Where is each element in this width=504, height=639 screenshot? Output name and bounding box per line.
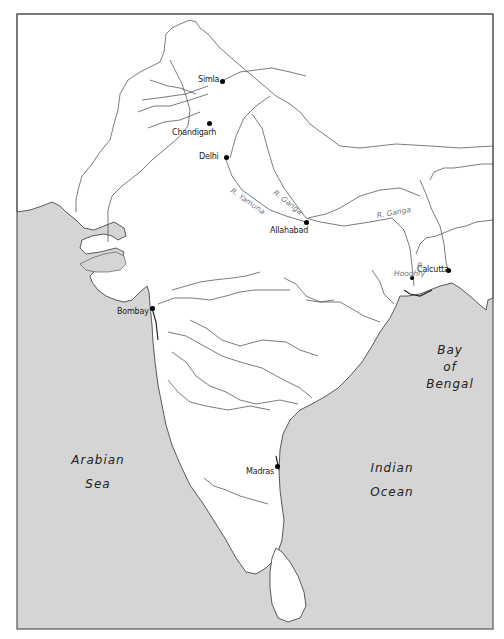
ocean-line-2: Ocean [362, 480, 422, 504]
city-label-delhi: Delhi [199, 152, 219, 161]
bay-line-1: Bay [420, 342, 480, 359]
ocean-line-1: Indian [362, 456, 422, 480]
city-dot-delhi [224, 155, 229, 160]
label-bay-of-bengal: Bay of Bengal [420, 342, 480, 393]
city-dot-bombay [150, 306, 155, 311]
bay-line-2: of [420, 359, 480, 376]
arabian-line-2: Sea [62, 472, 134, 496]
city-dot-allahabad [304, 220, 309, 225]
city-label-madras: Madras [246, 467, 274, 476]
city-label-simla: Simla [198, 75, 219, 84]
city-dot-madras [275, 464, 280, 469]
river-label-hooghly: R.Hooghly [394, 262, 425, 278]
label-arabian-sea: Arabian Sea [62, 448, 134, 496]
city-label-chandigarh: Chandigarh [172, 128, 216, 137]
city-label-bombay: Bombay [117, 307, 149, 316]
city-label-allahabad: Allahabad [270, 226, 308, 235]
bay-line-3: Bengal [420, 376, 480, 393]
city-dot-chandigarh [207, 121, 212, 126]
city-dot-simla [220, 79, 225, 84]
map-canvas [0, 0, 504, 639]
arabian-line-1: Arabian [62, 448, 134, 472]
label-indian-ocean: Indian Ocean [362, 456, 422, 504]
